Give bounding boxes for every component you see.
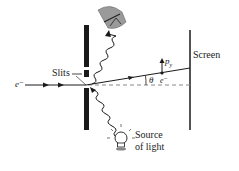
light-bulb-icon	[107, 124, 135, 151]
electron-incoming-label: e⁻	[15, 80, 24, 89]
momentum-sub: y	[170, 62, 173, 68]
detector-icon	[98, 6, 126, 28]
momentum-arrow	[160, 58, 165, 73]
electron-screen-label: e⁻	[160, 77, 168, 85]
screen-label: Screen	[193, 50, 220, 60]
theta-label: θ	[149, 76, 153, 85]
photon-out-wave	[92, 34, 116, 84]
momentum-label: py	[165, 57, 172, 68]
slits-label: Slits	[52, 68, 70, 78]
double-slit-diagram	[0, 0, 239, 171]
photon-in-wave	[92, 89, 118, 138]
theta-arc	[146, 76, 147, 85]
slits-pointer	[76, 76, 86, 85]
slit-barrier	[84, 25, 89, 130]
photon-out-arrowhead	[105, 30, 111, 37]
source-label-line2: of light	[135, 142, 164, 152]
electron-beam	[25, 83, 86, 88]
source-label-line1: Source	[135, 130, 163, 140]
photon-in-arrowhead	[90, 87, 96, 93]
